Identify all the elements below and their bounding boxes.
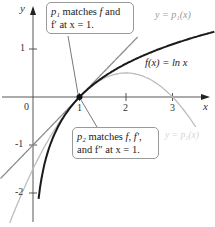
p2-curve-label: y = p₂(x) bbox=[165, 131, 199, 141]
p1-curve-label: y = p₁(x) bbox=[155, 10, 191, 20]
plot-canvas bbox=[0, 0, 215, 227]
y-tick-label-neg2: -2 bbox=[15, 187, 23, 197]
tangent-point bbox=[77, 94, 83, 100]
y-axis-arrow-icon bbox=[30, 6, 36, 15]
callout-p1-line2: f′ at x = 1. bbox=[51, 18, 129, 31]
callout-1-pointer bbox=[68, 36, 78, 94]
x-axis-label: x bbox=[203, 101, 208, 112]
x-tick-label-1: 1 bbox=[77, 103, 82, 113]
callout-p2-line1: p₂ matches f, f′, bbox=[77, 130, 154, 143]
x-tick-label-2: 2 bbox=[123, 103, 128, 113]
callout-p2-line2: and f″ at x = 1. bbox=[77, 143, 154, 156]
callout-p1-line1: p₁ matches f and bbox=[51, 5, 129, 18]
axis-ticks bbox=[29, 49, 173, 193]
y-axis-label: y bbox=[20, 3, 25, 14]
callout-p1: p₁ matches f and f′ at x = 1. bbox=[46, 2, 134, 34]
y-tick-label-neg1: -1 bbox=[15, 139, 23, 149]
x-tick-label-3: 3 bbox=[170, 103, 175, 113]
callout-p2: p₂ matches f, f′, and f″ at x = 1. bbox=[72, 127, 159, 159]
origin-label: 0 bbox=[24, 102, 29, 112]
y-tick-label-1: 1 bbox=[20, 43, 25, 53]
callout-2-pointer bbox=[81, 100, 97, 127]
f-curve-label: f(x) = ln x bbox=[145, 58, 187, 69]
